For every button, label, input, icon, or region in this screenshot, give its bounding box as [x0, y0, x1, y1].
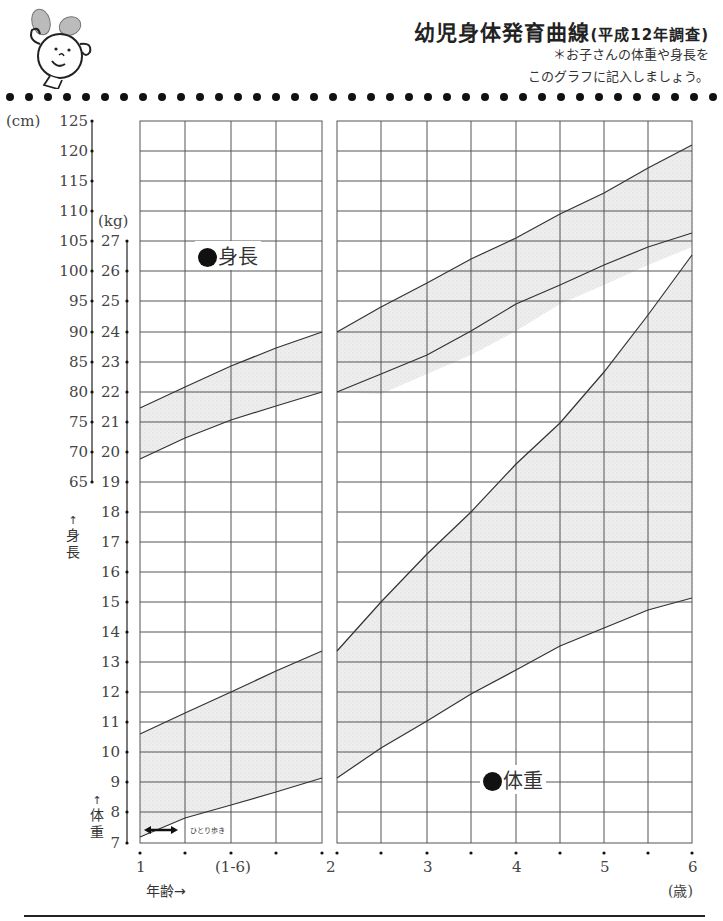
kg-tick: 17	[80, 533, 120, 551]
kg-tick: 15	[80, 593, 120, 611]
filled-circle-icon	[483, 772, 502, 791]
kg-tick: 11	[80, 713, 120, 731]
kg-tick: 22	[80, 383, 120, 401]
kg-unit-label: (kg)	[98, 212, 128, 230]
kg-tick: 19	[80, 473, 120, 491]
kg-tick: 23	[80, 353, 120, 371]
cm-tick: 110	[48, 202, 88, 220]
up-arrow-icon: ↑	[64, 515, 82, 527]
age-range-label: (1-6)	[215, 858, 251, 876]
legend-height: 身長	[195, 241, 261, 270]
kg-tick: 21	[80, 413, 120, 431]
kg-tick: 16	[80, 563, 120, 581]
age-tick-3: 3	[423, 858, 433, 876]
age-tick-5: 5	[600, 858, 610, 876]
weight-axis-text: 体重	[89, 807, 105, 841]
kg-tick: 26	[80, 262, 120, 280]
kg-tick: 25	[80, 292, 120, 310]
age-tick-1: 1	[136, 858, 146, 876]
height-axis-title: ↑ 身長	[64, 515, 82, 561]
kg-tick: 24	[80, 323, 120, 341]
age-unit-label: (歳)	[668, 880, 693, 900]
kg-tick: 9	[80, 773, 120, 791]
legend-weight: 体重	[480, 765, 546, 794]
filled-circle-icon	[198, 248, 217, 267]
cm-tick: 115	[48, 172, 88, 190]
x-axis-ticks	[138, 851, 693, 854]
kg-tick: 27	[80, 232, 120, 250]
up-arrow-icon: ↑	[88, 795, 106, 807]
kg-tick: 13	[80, 653, 120, 671]
cm-tick: 125	[48, 112, 88, 130]
weight-axis-title: ↑ 体重	[88, 795, 106, 841]
right-panel-bands	[337, 145, 692, 778]
kg-tick: 20	[80, 443, 120, 461]
walking-annotation: ひとり歩き	[190, 825, 225, 835]
age-tick-4: 4	[512, 858, 522, 876]
age-tick-2: 2	[326, 858, 336, 876]
legend-weight-text: 体重	[503, 769, 543, 793]
age-axis-title: 年齢→	[146, 880, 186, 900]
legend-height-text: 身長	[218, 245, 258, 269]
kg-tick: 12	[80, 683, 120, 701]
height-axis-text: 身長	[65, 527, 81, 561]
age-tick-6: 6	[688, 858, 698, 876]
kg-tick: 10	[80, 743, 120, 761]
cm-tick: 120	[48, 142, 88, 160]
kg-tick: 14	[80, 623, 120, 641]
cm-unit-label: (cm)	[6, 112, 40, 130]
kg-tick: 18	[80, 503, 120, 521]
